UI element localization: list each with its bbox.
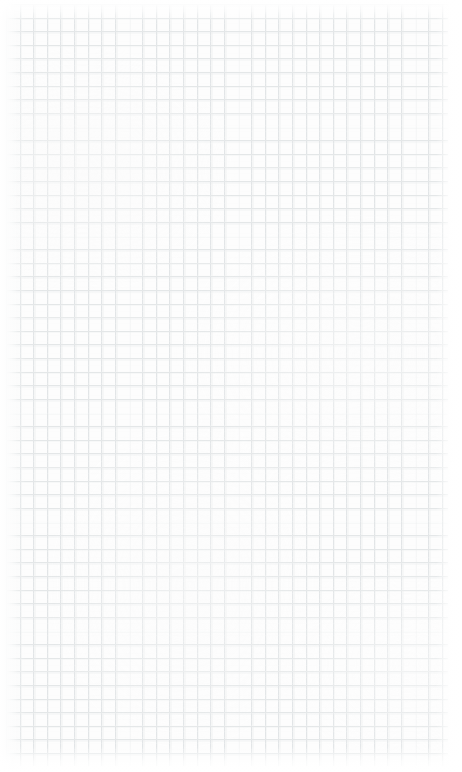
grid-horizontal-lines <box>6 4 448 766</box>
graph-paper-scan <box>0 0 462 772</box>
